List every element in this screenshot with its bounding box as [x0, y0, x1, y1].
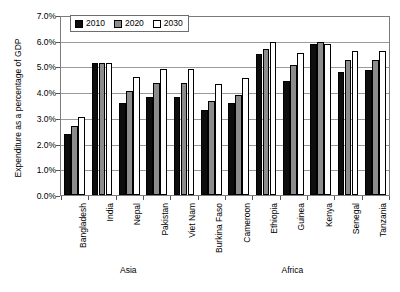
bar [119, 103, 125, 195]
bar [174, 97, 180, 195]
x-axis-tick-mark [280, 196, 281, 200]
x-axis-category-label: Pakistan [160, 203, 170, 236]
x-axis-category-label: Bangladesh [78, 203, 88, 248]
x-axis-tick-mark [198, 196, 199, 200]
bar [324, 44, 330, 195]
bar-group [256, 17, 276, 195]
bar-group [283, 17, 303, 195]
bar [78, 117, 84, 195]
x-axis-tick-mark [307, 196, 308, 200]
y-axis-tick-label: 1.0% [4, 166, 56, 175]
legend-item: 2030 [153, 19, 183, 28]
bar [208, 101, 214, 195]
x-axis-category-label: Cameroon [242, 203, 252, 243]
bar-group [201, 17, 221, 195]
bar [215, 84, 221, 195]
bar [379, 51, 385, 195]
x-axis: BangladeshIndiaNepalPakistanViet NamBurk… [60, 196, 390, 292]
bar [99, 63, 105, 195]
x-axis-category-label: Tanzania [378, 203, 388, 237]
legend-label: 2020 [125, 19, 144, 28]
bar [317, 42, 323, 195]
x-axis-tick-mark [252, 196, 253, 200]
x-axis-tick-mark [389, 196, 390, 200]
bar-group [92, 17, 112, 195]
x-axis-tick-mark [362, 196, 363, 200]
bar [126, 91, 132, 195]
bar [256, 54, 262, 195]
x-axis-tick-mark [88, 196, 89, 200]
bar-group [310, 17, 330, 195]
bar [133, 77, 139, 195]
x-axis-category-label: Nepal [132, 203, 142, 225]
bar [201, 110, 207, 195]
bar-chart: Expenditure as a percentage of GDP 0.0%1… [0, 0, 400, 292]
bar [64, 134, 70, 195]
bar [153, 83, 159, 195]
bar [338, 72, 344, 195]
x-axis-tick-mark [61, 196, 62, 200]
y-axis-tick-label: 6.0% [4, 37, 56, 46]
bar [283, 81, 289, 195]
bar [297, 53, 303, 195]
x-axis-category-label: Kenya [324, 203, 334, 227]
legend: 201020202030 [70, 15, 189, 32]
y-axis-tick-label: 4.0% [4, 89, 56, 98]
x-axis-tick-mark [225, 196, 226, 200]
x-axis-category-label: India [105, 203, 115, 221]
x-axis-category-label: Burkina Faso [214, 203, 224, 253]
bar [242, 78, 248, 195]
bar [106, 63, 112, 195]
bar [160, 69, 166, 195]
bar [228, 103, 234, 195]
y-axis-tick-labels: 0.0%1.0%2.0%3.0%4.0%5.0%6.0%7.0% [0, 16, 56, 196]
bar [235, 95, 241, 195]
bar [352, 51, 358, 195]
bar-group [119, 17, 139, 195]
y-axis-tick-label: 7.0% [4, 12, 56, 21]
legend-label: 2010 [86, 19, 105, 28]
bar-group [338, 17, 358, 195]
legend-swatch-icon [114, 20, 122, 28]
bar-group [365, 17, 385, 195]
bar [71, 126, 77, 195]
bar [345, 60, 351, 195]
x-axis-category-label: Ethiopia [269, 203, 279, 234]
bar [92, 63, 98, 195]
bar [290, 65, 296, 195]
x-axis-tick-mark [143, 196, 144, 200]
bar [146, 97, 152, 195]
legend-label: 2030 [164, 19, 183, 28]
x-axis-tick-mark [334, 196, 335, 200]
y-axis-tick-label: 0.0% [4, 192, 56, 201]
legend-swatch-icon [75, 20, 83, 28]
x-axis-tick-mark [116, 196, 117, 200]
bar [365, 70, 371, 195]
y-axis-tick-label: 5.0% [4, 63, 56, 72]
bar-group [146, 17, 166, 195]
legend-swatch-icon [153, 20, 161, 28]
bar [263, 49, 269, 195]
bar [270, 42, 276, 195]
x-axis-region-label: Asia [120, 265, 137, 275]
x-axis-category-label: Guinea [296, 203, 306, 230]
y-axis-tick-label: 2.0% [4, 140, 56, 149]
y-axis-tick-label: 3.0% [4, 115, 56, 124]
bar [181, 83, 187, 195]
x-axis-tick-mark [170, 196, 171, 200]
x-axis-region-label: Africa [281, 265, 303, 275]
x-axis-category-label: Senegal [351, 203, 361, 234]
bar [372, 60, 378, 195]
bar-group [228, 17, 248, 195]
bars-layer [61, 17, 389, 195]
x-axis-category-label: Viet Nam [187, 203, 197, 238]
bar-group [174, 17, 194, 195]
bar [310, 44, 316, 195]
bar [188, 69, 194, 195]
legend-item: 2020 [114, 19, 144, 28]
bar-group [64, 17, 84, 195]
legend-item: 2010 [75, 19, 105, 28]
